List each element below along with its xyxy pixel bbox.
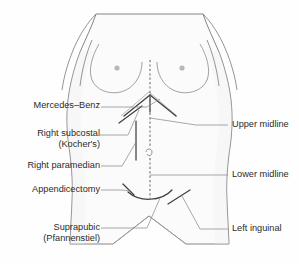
label-right-subcostal: Right subcostal (Kocher's) [0, 128, 100, 150]
abdominal-incisions-figure: Mercedes–Benz Right subcostal (Kocher's)… [0, 0, 299, 264]
label-right-paramedian-line-1: Right paramedian [0, 160, 100, 171]
label-right-subcostal-line-2: (Kocher's) [0, 139, 100, 150]
label-mercedes-benz-line-1: Mercedes–Benz [0, 100, 100, 111]
label-lower-midline-line-1: Lower midline [232, 169, 299, 180]
label-right-paramedian: Right paramedian [0, 160, 100, 171]
label-upper-midline: Upper midline [232, 119, 299, 130]
label-appendicectomy: Appendicectomy [0, 184, 100, 195]
label-mercedes-benz: Mercedes–Benz [0, 100, 100, 111]
label-suprapubic-line-2: (Pfannenstiel) [0, 233, 100, 244]
label-upper-midline-line-1: Upper midline [232, 119, 299, 130]
label-left-inguinal: Left inguinal [232, 223, 299, 234]
label-suprapubic: Suprapubic (Pfannenstiel) [0, 222, 100, 244]
label-right-subcostal-line-1: Right subcostal [0, 128, 100, 139]
label-lower-midline: Lower midline [232, 169, 299, 180]
label-suprapubic-line-1: Suprapubic [0, 222, 100, 233]
label-left-inguinal-line-1: Left inguinal [232, 223, 299, 234]
label-appendicectomy-line-1: Appendicectomy [0, 184, 100, 195]
